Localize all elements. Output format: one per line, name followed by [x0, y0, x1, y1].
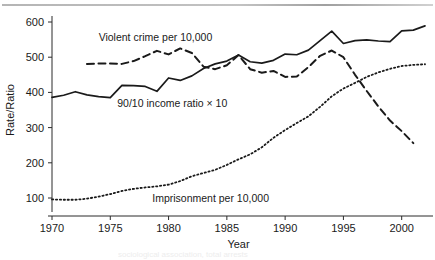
- x-tick-label: 1990: [273, 222, 297, 234]
- y-tick-label: 100: [26, 192, 44, 204]
- x-axis-title: Year: [227, 238, 250, 250]
- series-label-1: 90/10 income ratio × 10: [117, 97, 227, 109]
- figure-root: 1002003004005006001970197519801985199019…: [0, 0, 435, 260]
- x-tick-label: 1980: [156, 222, 180, 234]
- y-tick-label: 600: [26, 16, 44, 28]
- series-label-0: Violent crime per 10,000: [99, 31, 213, 43]
- x-tick-label: 2000: [389, 222, 413, 234]
- y-tick-label: 500: [26, 51, 44, 63]
- series-line-2: [52, 64, 425, 200]
- y-tick-label: 300: [26, 122, 44, 134]
- x-tick-label: 1995: [331, 222, 355, 234]
- x-tick-label: 1985: [215, 222, 239, 234]
- y-axis-title: Rate/Ratio: [4, 84, 16, 136]
- cut-off-caption: sociological association, total arrests: [118, 250, 358, 259]
- y-tick-label: 200: [26, 157, 44, 169]
- x-tick-label: 1970: [40, 222, 64, 234]
- line-chart: 1002003004005006001970197519801985199019…: [0, 0, 435, 260]
- series-label-2: Imprisonment per 10,000: [152, 192, 269, 204]
- x-tick-label: 1975: [98, 222, 122, 234]
- y-tick-label: 400: [26, 86, 44, 98]
